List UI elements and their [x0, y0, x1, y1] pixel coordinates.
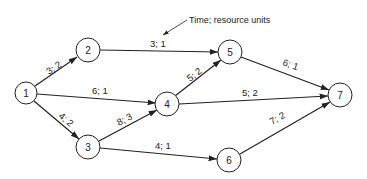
node-label-1: 1	[23, 88, 29, 99]
edge-label-5-7: 6; 1	[281, 57, 300, 73]
node-label-2: 2	[85, 45, 91, 56]
node-5: 5	[218, 40, 242, 64]
edge-label-3-4: 8; 3	[115, 111, 134, 128]
node-label-4: 4	[164, 99, 170, 110]
node-3: 3	[76, 135, 100, 159]
node-4: 4	[155, 92, 179, 116]
annotation: Time; resource units	[163, 15, 271, 35]
node-6: 6	[217, 148, 241, 172]
edge-label-4-7: 5; 2	[242, 87, 258, 98]
edge-label-2-5: 3; 1	[150, 38, 166, 49]
node-label-7: 7	[337, 90, 343, 101]
edge-label-6-7: 7; 2	[268, 109, 287, 126]
edge-label-1-4: 6; 1	[92, 85, 108, 96]
annotation-text: Time; resource units	[189, 15, 271, 25]
node-1: 1	[15, 82, 37, 104]
edge-label-4-5: 5; 2	[184, 65, 203, 83]
edge-label-1-3: 4; 2	[57, 110, 76, 129]
node-label-6: 6	[226, 155, 232, 166]
node-label-5: 5	[227, 47, 233, 58]
annotation-leader-line	[163, 20, 187, 35]
edge-6-7	[240, 102, 330, 154]
network-diagram: 3; 2 6; 1 4; 2 3; 1 8; 3 4; 1 5; 2 5; 2 …	[0, 0, 367, 179]
node-label-3: 3	[85, 142, 91, 153]
edge-label-3-6: 4; 1	[155, 140, 171, 151]
node-2: 2	[76, 38, 100, 62]
edge-label-1-2: 3; 2	[44, 59, 63, 77]
nodes: 1 2 3 4 5 6 7	[15, 38, 352, 172]
node-7: 7	[328, 83, 352, 107]
edge-2-5	[100, 50, 218, 52]
